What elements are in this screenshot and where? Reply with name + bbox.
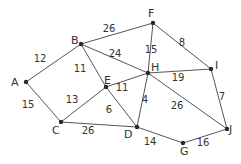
edge-weight-g-j: 16 [197,137,210,148]
edge-c-d [61,122,137,127]
node-b [79,42,83,46]
node-label-j: J [228,123,232,136]
edge-weight-i-j: 7 [219,91,225,102]
edge-weight-a-c: 15 [22,99,35,110]
edge-h-j [148,73,227,129]
node-d [135,125,139,129]
node-label-d: D [124,128,132,141]
edge-weight-a-b: 12 [34,53,47,64]
node-a [24,80,28,84]
edge-weight-h-j: 26 [171,100,184,111]
node-label-g: G [180,145,189,158]
edge-weight-b-h: 24 [109,48,122,59]
edge-weight-h-i: 19 [172,72,185,83]
graph-diagram: 121526241113261161581942671416 ABCDEFGHI… [0,0,241,164]
node-h [146,71,150,75]
edge-weight-h-d: 4 [142,94,148,105]
edge-weight-c-d: 26 [82,125,95,136]
edge-b-f [81,23,153,44]
node-label-i: I [215,59,218,72]
node-label-f: F [148,7,154,20]
node-label-b: B [71,34,79,47]
edge-weight-e-h: 11 [116,82,129,93]
edge-weight-f-i: 8 [179,37,185,48]
node-label-a: A [11,76,19,89]
node-label-e: E [104,74,111,87]
node-f [151,21,155,25]
node-label-c: C [52,124,60,137]
edge-weight-b-e: 11 [74,63,87,74]
edge-weight-d-g: 14 [144,136,157,147]
edge-weight-e-d: 6 [106,104,112,115]
node-label-h: H [151,61,159,74]
edge-weight-b-f: 26 [103,23,116,34]
edge-weight-f-h: 15 [145,44,158,55]
node-i [209,67,213,71]
edge-weight-c-e: 13 [66,94,79,105]
